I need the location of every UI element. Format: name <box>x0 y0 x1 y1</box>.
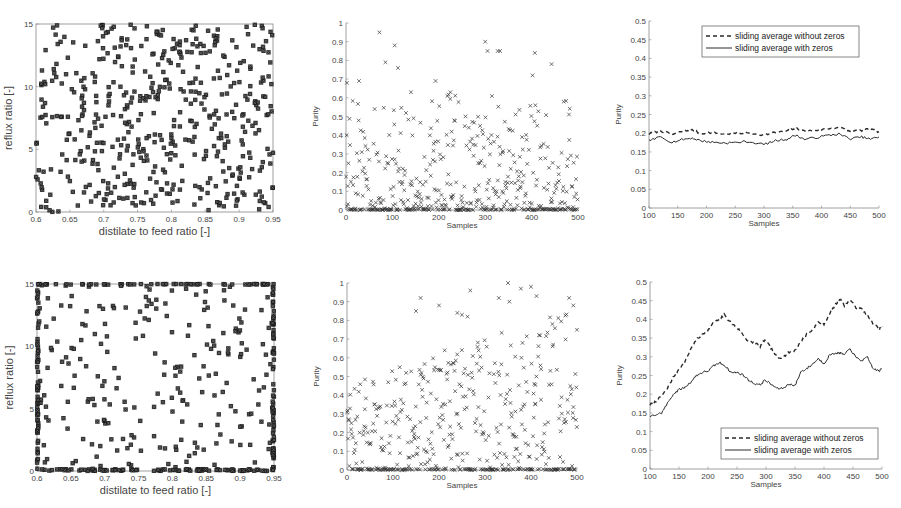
legend-entry-without-zeros: sliding average without zeros <box>735 31 845 41</box>
x-tick-label: 150 <box>671 211 685 220</box>
y-tick-label: 0.5 <box>333 373 345 382</box>
x-tick-label: 150 <box>672 472 686 481</box>
x-tick-label: 0.7 <box>99 474 111 483</box>
legend-entry-with-zeros: sliding average with zeros <box>735 43 833 53</box>
x-tick-label: 0.95 <box>266 474 282 483</box>
y-tick-label: 0.3 <box>635 92 647 101</box>
x-tick-label: 250 <box>729 211 743 220</box>
x-tick-label: 200 <box>701 472 715 481</box>
x-tick-label: 0.85 <box>197 215 213 224</box>
legend-entry-with-zeros: sliding average with zeros <box>754 445 852 455</box>
y-tick-label: 0.2 <box>333 429 345 438</box>
y-tick-label: 0.9 <box>333 298 345 307</box>
x-tick-label: 0.85 <box>198 474 214 483</box>
scatter-points <box>344 31 579 212</box>
y-tick-label: 0.05 <box>631 446 647 455</box>
x-tick-label: 400 <box>525 213 539 222</box>
y-tick-label: 0.5 <box>635 17 647 26</box>
y-tick-label: 10 <box>24 83 33 92</box>
x-tick-label: 0.9 <box>235 474 247 483</box>
y-tick-label: 0.45 <box>630 36 646 45</box>
x-tick-label: 0.8 <box>167 474 179 483</box>
x-tick-label: 400 <box>817 472 831 481</box>
y-axis-label: Purity <box>615 365 624 385</box>
legend: sliding average without zerossliding ave… <box>702 26 859 57</box>
x-tick-label: 500 <box>570 473 584 482</box>
x-tick-label: 300 <box>479 213 493 222</box>
x-axis-label: distilate to feed ratio [-] <box>99 225 210 237</box>
plot-purity-samples-top: 010020030040050000.10.20.30.40.50.60.70.… <box>311 19 585 230</box>
legend-entry-without-zeros: sliding average without zeros <box>754 433 864 443</box>
y-tick-label: 10 <box>25 342 34 351</box>
y-tick-label: 0.2 <box>332 169 344 178</box>
x-axis-label: Samples <box>446 221 477 230</box>
y-tick-label: 0 <box>30 467 35 476</box>
y-tick-label: 0.15 <box>631 409 647 418</box>
y-tick-label: 0.4 <box>332 131 344 140</box>
x-axis-label: Samples <box>748 219 779 228</box>
x-tick-label: 0.65 <box>62 215 78 224</box>
x-tick-label: 500 <box>571 213 585 222</box>
x-tick-label: 500 <box>875 472 889 481</box>
y-tick-label: 15 <box>24 20 33 29</box>
y-tick-label: 0.35 <box>630 73 646 82</box>
y-tick-label: 5 <box>30 405 35 414</box>
y-axis-label: Purity <box>312 366 321 386</box>
scatter-points <box>345 281 579 472</box>
y-tick-label: 1 <box>339 19 344 28</box>
y-tick-label: 0.3 <box>332 150 344 159</box>
y-tick-label: 0.7 <box>333 335 345 344</box>
x-tick-label: 400 <box>815 211 829 220</box>
scatter-points <box>34 23 275 215</box>
x-tick-label: 0 <box>345 473 350 482</box>
y-tick-label: 0.2 <box>636 390 648 399</box>
y-tick-label: 5 <box>29 145 34 154</box>
x-axis-label: distilate to feed ratio [-] <box>100 484 211 496</box>
x-tick-label: 0.75 <box>131 474 147 483</box>
x-tick-label: 0.95 <box>265 215 281 224</box>
y-tick-label: 0.4 <box>636 315 648 324</box>
x-tick-label: 0.9 <box>234 215 246 224</box>
y-tick-label: 0.3 <box>333 410 345 419</box>
x-tick-label: 450 <box>844 211 858 220</box>
y-tick-label: 0 <box>340 466 345 475</box>
plot-reflux-vs-distillate-bottom: 0.60.650.70.750.80.850.90.95051015distil… <box>3 280 282 496</box>
line-without-zeros <box>649 127 879 136</box>
x-tick-label: 0.65 <box>63 474 79 483</box>
y-tick-label: 0.3 <box>636 353 648 362</box>
x-tick-label: 400 <box>524 473 538 482</box>
y-tick-label: 0.5 <box>636 278 648 287</box>
y-tick-label: 15 <box>25 280 34 289</box>
x-axis-label: Samples <box>750 480 781 489</box>
y-axis-label: reflux ratio [-] <box>2 86 14 150</box>
y-tick-label: 0 <box>643 465 648 474</box>
plot-sliding-average-bottom: 10015020025030035040045050000.050.10.150… <box>615 278 889 489</box>
x-tick-label: 350 <box>786 211 800 220</box>
y-tick-label: 0.35 <box>631 334 647 343</box>
axes: 010020030040050000.10.20.30.40.50.60.70.… <box>312 279 584 490</box>
x-tick-label: 100 <box>386 473 400 482</box>
y-tick-label: 0 <box>642 204 647 213</box>
x-tick-label: 500 <box>872 211 886 220</box>
x-axis-label: Samples <box>446 481 477 490</box>
scatter-points <box>35 282 276 473</box>
y-tick-label: 0.6 <box>332 94 344 103</box>
y-tick-label: 0.1 <box>636 428 648 437</box>
y-tick-label: 1 <box>340 279 345 288</box>
x-tick-label: 350 <box>788 472 802 481</box>
x-tick-label: 0.7 <box>98 215 110 224</box>
figure-canvas: 0.60.650.70.750.80.850.90.95051015distil… <box>0 0 901 508</box>
axes: 010020030040050000.10.20.30.40.50.60.70.… <box>311 19 585 230</box>
y-tick-label: 0.05 <box>630 185 646 194</box>
x-tick-label: 450 <box>846 472 860 481</box>
y-tick-label: 0.7 <box>332 75 344 84</box>
x-tick-label: 200 <box>432 213 446 222</box>
y-tick-label: 0.25 <box>630 111 646 120</box>
y-tick-label: 0.2 <box>635 129 647 138</box>
y-tick-label: 0.4 <box>635 54 647 63</box>
x-tick-label: 0.75 <box>130 215 146 224</box>
y-tick-label: 0.6 <box>333 354 345 363</box>
plot-reflux-vs-distillate-top: 0.60.650.70.750.80.850.90.95051015distil… <box>2 20 281 237</box>
x-tick-label: 250 <box>730 472 744 481</box>
x-tick-label: 100 <box>386 213 400 222</box>
